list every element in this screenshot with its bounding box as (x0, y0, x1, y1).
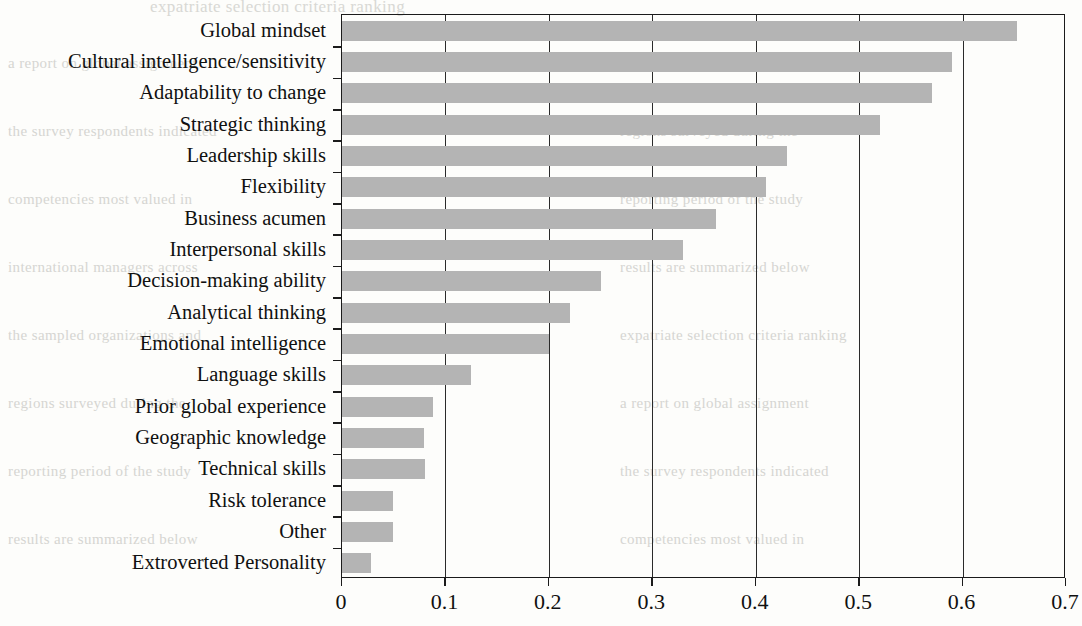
y-axis-tick (333, 78, 342, 80)
category-label: Adaptability to change (0, 82, 326, 103)
x-axis-tick-label: 0.2 (534, 589, 562, 615)
bar (342, 146, 787, 166)
bar (342, 522, 393, 542)
x-axis: 00.10.20.30.40.50.60.7 (341, 578, 1065, 624)
category-label: Flexibility (0, 176, 326, 197)
y-axis-tick (333, 234, 342, 236)
y-axis-tick (333, 172, 342, 174)
category-label: Leadership skills (0, 145, 326, 166)
x-axis-tick (444, 578, 445, 586)
bar (342, 491, 393, 511)
x-axis-tick-label: 0.5 (844, 589, 872, 615)
x-axis-tick-label: 0.6 (948, 589, 976, 615)
bar (342, 209, 716, 229)
category-label: Language skills (0, 364, 326, 385)
bar (342, 240, 683, 260)
category-label: Decision-making ability (0, 270, 326, 291)
bar (342, 303, 570, 323)
y-axis-tick (333, 485, 342, 487)
y-axis-tick (333, 360, 342, 362)
category-label: Technical skills (0, 458, 326, 479)
category-label: Global mindset (0, 20, 326, 41)
bar (342, 365, 471, 385)
bar (342, 397, 433, 417)
category-label: Risk tolerance (0, 490, 326, 511)
category-label: Analytical thinking (0, 302, 326, 323)
x-axis-tick (755, 578, 756, 586)
x-axis-tick (548, 578, 549, 586)
y-axis-tick (333, 548, 342, 550)
y-axis-tick (333, 328, 342, 330)
x-axis-tick (858, 578, 859, 586)
category-label: Emotional intelligence (0, 333, 326, 354)
x-axis-tick (651, 578, 652, 586)
y-axis-tick (333, 516, 342, 518)
category-label-column: Global mindsetCultural intelligence/sens… (0, 14, 334, 578)
category-label: Business acumen (0, 208, 326, 229)
bar (342, 177, 766, 197)
y-axis-tick (333, 203, 342, 205)
y-axis-tick (333, 422, 342, 424)
x-axis-tick (962, 578, 963, 586)
x-axis-tick-label: 0.4 (741, 589, 769, 615)
x-axis-tick-label: 0.7 (1051, 589, 1079, 615)
y-axis-tick (333, 297, 342, 299)
bar (342, 271, 601, 291)
y-axis-tick (333, 140, 342, 142)
x-axis-tick-label: 0 (336, 589, 347, 615)
category-label: Extroverted Personality (0, 552, 326, 573)
bar (342, 52, 952, 72)
x-axis-tick-label: 0.1 (431, 589, 459, 615)
bar (342, 334, 549, 354)
category-label: Geographic knowledge (0, 427, 326, 448)
category-label: Interpersonal skills (0, 239, 326, 260)
y-axis-tick (333, 266, 342, 268)
y-axis-tick (333, 46, 342, 48)
x-axis-tick-label: 0.3 (638, 589, 666, 615)
category-label: Cultural intelligence/sensitivity (0, 51, 326, 72)
x-axis-tick (1065, 578, 1066, 586)
gridline-0.6 (963, 15, 964, 577)
x-axis-tick (341, 578, 342, 586)
y-axis-tick (333, 454, 342, 456)
bar (342, 115, 880, 135)
plot-area (341, 14, 1065, 578)
category-label: Other (0, 521, 326, 542)
bar (342, 21, 1017, 41)
bar (342, 553, 371, 573)
category-label: Strategic thinking (0, 114, 326, 135)
bar-chart-figure: expatriate selection criteria rankinga r… (0, 0, 1082, 626)
bar (342, 459, 425, 479)
bar (342, 83, 932, 103)
y-axis-tick (333, 391, 342, 393)
y-axis-tick (333, 109, 342, 111)
bar (342, 428, 424, 448)
category-label: Prior global experience (0, 396, 326, 417)
